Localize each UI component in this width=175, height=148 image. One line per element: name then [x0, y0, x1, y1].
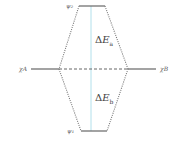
delta-e-b-label: ΔEb — [95, 93, 113, 105]
chiA-label: χA — [19, 66, 27, 72]
psi2-label: ψ₂ — [66, 3, 73, 9]
delta-e-a-label: ΔEa — [95, 35, 113, 47]
psi1-label: ψ₁ — [67, 128, 74, 134]
chiB-label: χB — [160, 66, 168, 72]
mo-diagram — [0, 0, 175, 148]
